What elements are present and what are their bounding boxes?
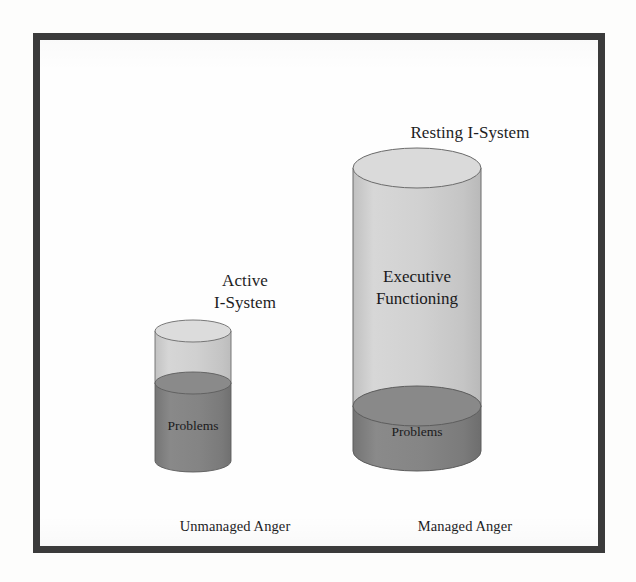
label-resting-i-system: Resting I-System (340, 122, 600, 144)
cylinder-managed-top-rim (353, 148, 481, 188)
label-active-i-system: Active I-System (160, 270, 330, 315)
cylinder-unmanaged-problems-body (155, 383, 231, 472)
cylinder-managed-svg (350, 148, 484, 473)
caption-unmanaged-anger: Unmanaged Anger (140, 517, 330, 536)
figure-root: Resting I-System Active I-System (0, 0, 636, 582)
cylinder-unmanaged-fill-surface (155, 372, 231, 394)
cylinder-managed-anger: Executive Functioning Problems (350, 148, 484, 473)
frame-canvas: Resting I-System Active I-System (40, 40, 598, 546)
cylinder-managed-fill-surface (353, 386, 481, 426)
caption-managed-anger: Managed Anger (370, 517, 560, 536)
cylinder-unmanaged-anger: Problems (152, 320, 234, 472)
cylinder-unmanaged-svg (152, 320, 234, 472)
cylinder-unmanaged-top-rim (155, 320, 231, 342)
picture-frame: Resting I-System Active I-System (33, 33, 605, 553)
